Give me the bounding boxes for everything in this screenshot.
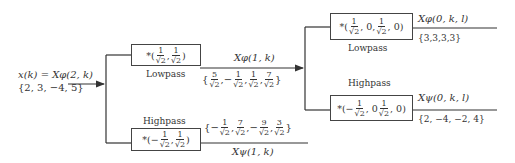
coeff-frac: 1√2 xyxy=(156,46,166,65)
comma: , xyxy=(244,75,247,85)
denominator: √2 xyxy=(175,140,185,149)
numerator: 1 xyxy=(157,46,164,56)
comma: , xyxy=(270,123,273,133)
level1-highpass-output-values: { −1√2, 7√2, −9√2, 3√2 } xyxy=(204,118,292,137)
coeff-frac: 1√2 xyxy=(379,99,389,118)
denominator: √2 xyxy=(259,128,269,137)
numerator: 1 xyxy=(235,70,242,80)
level1-lowpass-output-values: { 5√2, −1√2, 1√2, 7√2 } xyxy=(202,70,281,89)
denominator: √2 xyxy=(376,27,386,36)
value-frac: 1√2 xyxy=(233,70,243,89)
filter-close: ) xyxy=(186,134,190,145)
level2-lowpass-caption: Lowpass xyxy=(348,44,387,53)
denominator: √2 xyxy=(274,128,284,137)
brace: } xyxy=(275,75,281,85)
filter-close: ) xyxy=(402,103,406,114)
value-frac: 1√2 xyxy=(249,70,259,89)
level1-lowpass-filter-box: *( 1√2, 1√2 ) xyxy=(131,44,201,66)
comma: , xyxy=(231,123,234,133)
denominator: √2 xyxy=(249,80,259,89)
denominator: √2 xyxy=(220,128,230,137)
comma: , xyxy=(260,75,263,85)
value-frac: 3√2 xyxy=(274,118,284,137)
denominator: √2 xyxy=(156,56,166,65)
coeff-frac: 1√2 xyxy=(349,17,359,36)
value-frac: 7√2 xyxy=(264,70,274,89)
value-frac: 7√2 xyxy=(235,118,245,137)
coeff-frac: 1√2 xyxy=(160,130,170,149)
level1-lowpass-caption: Lowpass xyxy=(146,70,185,79)
level1-highpass-caption: Highpass xyxy=(143,117,186,126)
filter-close: ) xyxy=(400,21,404,32)
filter-open: *( xyxy=(337,103,345,114)
denominator: √2 xyxy=(160,140,170,149)
level2-highpass-output-values: {2, −4, −2, 4} xyxy=(418,115,485,124)
level1-highpass-filter-box: *( −1√2, 1√2 ) xyxy=(131,128,201,151)
denominator: √2 xyxy=(379,109,389,118)
level2-lowpass-filter-box: *( 1√2, 0, 1√2, 0 ) xyxy=(330,13,413,40)
denominator: √2 xyxy=(349,27,359,36)
level2-highpass-caption: Highpass xyxy=(348,79,391,88)
filter-close: ) xyxy=(182,50,186,61)
level2-highpass-output-label: Xψ(0, k, l) xyxy=(418,93,469,103)
comma: , xyxy=(366,103,369,114)
numerator: 1 xyxy=(176,130,183,140)
numerator: 1 xyxy=(221,118,228,128)
denominator: √2 xyxy=(264,80,274,89)
level1-lowpass-output-label: Xφ(1, k) xyxy=(234,53,275,63)
numerator: 1 xyxy=(250,70,257,80)
input-signal-values: {2, 3, −4, 5} xyxy=(18,83,84,93)
sign: − xyxy=(250,123,258,133)
filter-open: *( xyxy=(340,21,348,32)
numerator: 1 xyxy=(351,17,358,27)
numerator: 3 xyxy=(276,118,283,128)
sign: − xyxy=(346,103,354,114)
input-signal-label: x(k) = Xφ(2, k) xyxy=(18,70,93,80)
level2-lowpass-output-label: Xφ(0, k, l) xyxy=(418,14,468,24)
sign: − xyxy=(224,75,232,85)
coeff-frac: 1√2 xyxy=(355,99,365,118)
numerator: 5 xyxy=(211,70,218,80)
denominator: √2 xyxy=(171,56,181,65)
numerator: 1 xyxy=(380,99,387,109)
coeff-frac: 1√2 xyxy=(171,46,181,65)
level2-lowpass-output-values: {3,3,3,3} xyxy=(418,34,461,43)
denominator: √2 xyxy=(355,109,365,118)
value-frac: 9√2 xyxy=(259,118,269,137)
numerator: 1 xyxy=(161,130,168,140)
denominator: √2 xyxy=(235,128,245,137)
value-frac: 1√2 xyxy=(220,118,230,137)
zero: 0 xyxy=(372,103,378,114)
sign: − xyxy=(151,134,159,145)
level1-highpass-output-label: Xψ(1, k) xyxy=(232,147,274,157)
comma: , xyxy=(390,103,393,114)
numerator: 1 xyxy=(378,17,385,27)
numerator: 7 xyxy=(237,118,244,128)
coeff-frac: 1√2 xyxy=(376,17,386,36)
numerator: 7 xyxy=(265,70,272,80)
level2-highpass-filter-box: *( −1√2, 0 1√2, 0 ) xyxy=(330,95,413,121)
brace: { xyxy=(202,75,208,85)
comma: , xyxy=(372,21,375,32)
sign: − xyxy=(210,123,218,133)
comma: , xyxy=(360,21,363,32)
coeff-frac: 1√2 xyxy=(175,130,185,149)
filter-open: *( xyxy=(146,50,154,61)
brace: } xyxy=(285,123,291,133)
numerator: 1 xyxy=(356,99,363,109)
comma: , xyxy=(388,21,391,32)
denominator: √2 xyxy=(233,80,243,89)
denominator: √2 xyxy=(209,80,219,89)
numerator: 1 xyxy=(172,46,179,56)
comma: , xyxy=(171,134,174,145)
comma: , xyxy=(167,50,170,61)
value-frac: 5√2 xyxy=(209,70,219,89)
filter-open: *( xyxy=(142,134,150,145)
numerator: 9 xyxy=(260,118,267,128)
